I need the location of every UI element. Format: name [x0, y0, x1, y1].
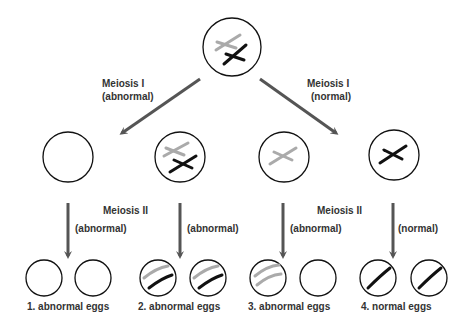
outcome-label-2: 2. abnormal eggs — [138, 300, 220, 313]
label-branch-4: (normal) — [398, 222, 438, 235]
cell-both-chromosomes — [155, 132, 205, 182]
label-branch-2: (abnormal) — [187, 222, 239, 235]
label-meiosis1-right: Meiosis I(normal) — [307, 77, 351, 103]
cell-black-chromosome — [369, 130, 419, 180]
parent-cell — [203, 18, 261, 76]
outcome-label-1: 1. abnormal eggs — [27, 300, 109, 313]
cell-grey-chromosome — [259, 132, 309, 182]
label-branch-1: (abnormal) — [75, 222, 127, 235]
egg-1a — [26, 260, 62, 296]
cell-empty — [43, 132, 93, 182]
egg-1b — [75, 260, 111, 296]
meiosis-diagram — [0, 0, 462, 325]
label-branch-3: (abnormal) — [290, 222, 342, 235]
label-meiosis1-left: Meiosis I(abnormal) — [102, 77, 154, 103]
outcome-label-4: 4. normal eggs — [361, 300, 432, 313]
label-meiosis2-right: Meiosis II — [317, 204, 362, 217]
label-meiosis2-left: Meiosis II — [103, 204, 148, 217]
egg-3b — [300, 260, 336, 296]
outcome-label-3: 3. abnormal eggs — [248, 300, 330, 313]
grey-chromosome-icon — [216, 35, 240, 50]
